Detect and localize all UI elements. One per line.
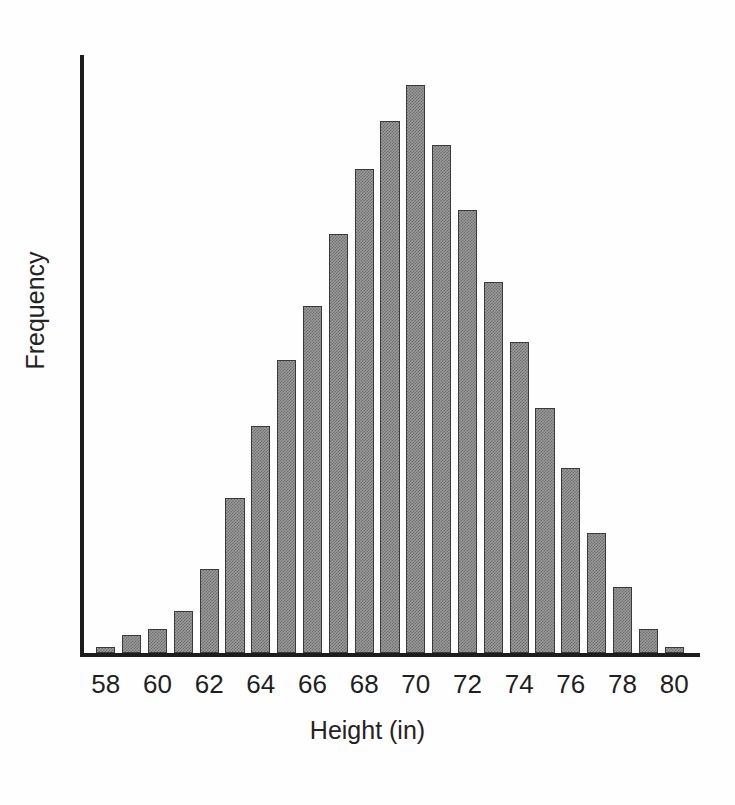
histogram-bar (510, 342, 529, 653)
y-axis-label: Frequency (0, 0, 70, 620)
histogram-bar (200, 569, 219, 653)
histogram-bar (406, 85, 425, 653)
histogram-bar (225, 498, 244, 653)
plot-area (80, 55, 700, 657)
histogram-bar (251, 426, 270, 653)
histogram-bar (355, 169, 374, 653)
bar-series (80, 55, 700, 653)
histogram-bar (639, 629, 658, 653)
histogram-bar (458, 210, 477, 653)
histogram-bar (122, 635, 141, 653)
histogram-bar (535, 408, 554, 653)
histogram-bar (613, 587, 632, 653)
histogram-bar (484, 282, 503, 653)
histogram-bar (96, 647, 115, 653)
histogram-bar (561, 468, 580, 653)
x-axis-title: Height (in) (0, 716, 735, 745)
histogram-bar (587, 533, 606, 653)
histogram-bar (303, 306, 322, 653)
histogram-bar (174, 611, 193, 653)
histogram-bar (148, 629, 167, 653)
x-axis-tick-labels: 586062646668707274767880 (80, 668, 700, 704)
histogram-bar (665, 647, 684, 653)
x-axis-spine (80, 653, 700, 657)
x-tick-label: 80 (644, 668, 704, 700)
histogram-bar (329, 234, 348, 653)
y-axis-label-text: Frequency (21, 251, 50, 369)
histogram-bar (277, 360, 296, 653)
histogram-bar (380, 121, 399, 653)
histogram-figure: Frequency 586062646668707274767880 Heigh… (0, 0, 735, 805)
histogram-bar (432, 145, 451, 653)
